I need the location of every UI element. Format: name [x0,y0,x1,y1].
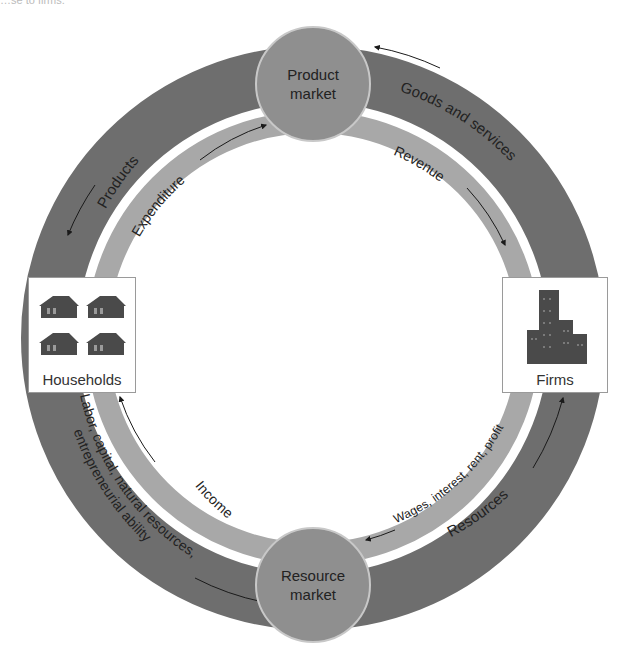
households-label: Households [29,371,135,388]
house-icon [29,278,137,368]
resource-market-label-2: market [290,586,337,603]
product-market-node: Product market [256,27,370,141]
resource-market-label-1: Resource [281,567,345,584]
resource-market-node: Resource market [256,528,370,642]
product-market-label-1: Product [287,66,340,83]
firms-node: Firms [502,277,608,393]
product-market-label-2: market [290,85,337,102]
firms-label: Firms [503,371,607,388]
building-icon [503,278,609,370]
households-node: Households [28,277,136,393]
